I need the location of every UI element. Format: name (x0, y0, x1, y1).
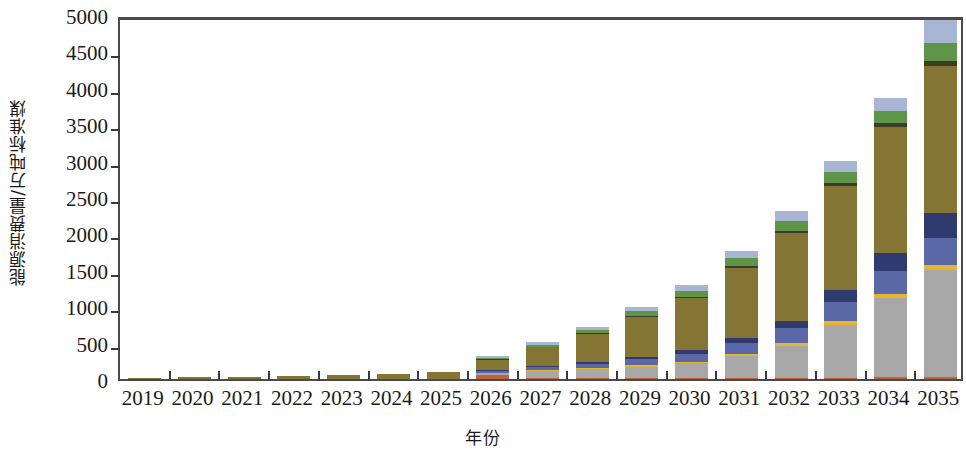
y-axis-tick (111, 238, 120, 240)
x-axis-tick (417, 371, 419, 380)
bar-segment-series-2 (675, 363, 708, 378)
x-axis-tick-label: 2025 (420, 386, 462, 411)
y-axis-tick-labels: 0500100015002000250030003500400045005000 (30, 0, 114, 400)
bar-segment-series-4 (824, 302, 857, 322)
x-axis-tick (715, 371, 717, 380)
bar-segment-series-6 (128, 378, 161, 379)
bar-segment-series-5 (824, 290, 857, 302)
bar-segment-series-8 (824, 172, 857, 182)
y-axis-tick (111, 311, 120, 313)
bar-segment-series-4 (924, 238, 957, 265)
bar-segment-series-1 (874, 377, 907, 379)
bar-segment-series-2 (625, 367, 658, 379)
bar-stack (327, 375, 360, 379)
x-axis-tick-label: 2026 (470, 386, 512, 411)
y-axis-tick-label: 4000 (66, 77, 108, 102)
x-axis-tick-label: 2023 (321, 386, 363, 411)
bar-segment-series-1 (725, 378, 758, 379)
y-axis-title-text: 能源消费量/万吨标准煤 (5, 99, 30, 286)
bar-segment-series-6 (476, 360, 509, 371)
stacked-bar-chart-figure: 能源消费量/万吨标准煤 0500100015002000250030003500… (0, 0, 966, 459)
bar-segment-series-4 (775, 328, 808, 344)
y-axis-tick-label: 5000 (66, 5, 108, 30)
x-axis-tick-label: 2028 (569, 386, 611, 411)
y-axis-tick-label: 1500 (66, 259, 108, 284)
bar-segment-series-1 (476, 375, 509, 379)
bar-segment-series-9 (874, 98, 907, 111)
bar-segment-series-1 (924, 377, 957, 379)
bar-segment-series-6 (327, 375, 360, 379)
bar-segment-series-9 (824, 161, 857, 172)
x-axis-tick-label: 2030 (669, 386, 711, 411)
y-axis-tick (111, 348, 120, 350)
bar-segment-series-9 (775, 211, 808, 220)
bar-segment-series-9 (924, 20, 957, 43)
bar-stack (228, 377, 261, 379)
bar-segment-series-9 (725, 251, 758, 258)
plot-area (118, 17, 963, 381)
bar-segment-series-2 (725, 356, 758, 378)
x-axis-tick-label: 2034 (867, 386, 909, 411)
bar-segment-series-6 (775, 233, 808, 320)
bar-segment-series-2 (924, 270, 957, 377)
x-axis-tick (566, 371, 568, 380)
x-axis-tick (268, 371, 270, 380)
bar-segment-series-6 (277, 376, 310, 379)
bar-segment-series-5 (775, 321, 808, 328)
bar-segment-series-2 (824, 325, 857, 378)
bar-stack (476, 356, 509, 379)
bar-segment-series-6 (924, 66, 957, 213)
x-axis-tick (169, 371, 171, 380)
x-axis-tick (467, 371, 469, 380)
bar-segment-series-1 (775, 378, 808, 379)
x-axis-tick (865, 371, 867, 380)
y-axis-tick-label: 2500 (66, 187, 108, 212)
bar-segment-series-6 (675, 298, 708, 350)
x-axis-tick-labels: 2019202020212022202320242025202620272028… (118, 386, 963, 414)
x-axis-tick-label: 2022 (271, 386, 313, 411)
x-axis-tick (218, 371, 220, 380)
x-axis-title: 年份 (0, 424, 966, 449)
bar-stack (128, 378, 161, 379)
y-axis-tick (111, 93, 120, 95)
bar-segment-series-2 (874, 298, 907, 377)
bar-segment-series-2 (526, 371, 559, 379)
x-axis-tick (616, 371, 618, 380)
bar-segment-series-6 (725, 268, 758, 338)
bar-stack (427, 372, 460, 379)
bar-stack (924, 20, 957, 379)
x-axis-tick (914, 371, 916, 380)
y-axis-tick (111, 166, 120, 168)
y-axis-title: 能源消费量/万吨标准煤 (2, 0, 32, 385)
bar-segment-series-1 (526, 378, 559, 379)
x-axis-tick-label: 2035 (917, 386, 959, 411)
bar-stack (178, 377, 211, 379)
y-axis-tick-label: 3500 (66, 114, 108, 139)
x-axis-tick-label: 2021 (221, 386, 263, 411)
bar-stack (824, 161, 857, 379)
x-axis-tick (517, 371, 519, 380)
x-axis-tick-label: 2029 (619, 386, 661, 411)
bar-segment-series-4 (725, 343, 758, 355)
x-axis-tick-label: 2032 (768, 386, 810, 411)
bar-segment-series-4 (874, 271, 907, 294)
y-axis-tick-label: 0 (98, 369, 109, 394)
bar-segment-series-1 (576, 378, 609, 379)
y-axis-tick-label: 3000 (66, 150, 108, 175)
bar-stack (675, 285, 708, 379)
bar-stack (277, 376, 310, 379)
y-axis-tick (111, 275, 120, 277)
x-axis-tick-label: 2027 (520, 386, 562, 411)
bar-segment-series-6 (625, 317, 658, 357)
bar-stack (874, 98, 907, 379)
bar-stack (576, 327, 609, 379)
bar-stack (377, 374, 410, 379)
bar-segment-series-5 (874, 253, 907, 271)
bar-segment-series-1 (625, 378, 658, 379)
plot-inner (120, 20, 961, 379)
bar-stack (625, 307, 658, 379)
x-axis-tick (318, 371, 320, 380)
bar-segment-series-8 (874, 111, 907, 123)
x-axis-tick-label: 2019 (122, 386, 164, 411)
bar-segment-series-6 (576, 334, 609, 362)
